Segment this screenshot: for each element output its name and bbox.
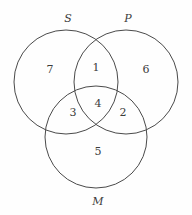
venn-diagram: S P M 1 2 3 4 5 6 7 xyxy=(0,0,192,215)
region-label: 2 xyxy=(120,107,127,118)
region-label: 7 xyxy=(47,64,54,75)
set-label-p: P xyxy=(124,13,131,24)
region-label: 6 xyxy=(143,64,150,75)
region-label: 3 xyxy=(70,107,77,118)
set-label-s: S xyxy=(64,13,72,24)
set-label-m: M xyxy=(92,196,103,207)
region-label: 4 xyxy=(95,98,102,109)
region-label: 1 xyxy=(93,62,100,73)
region-label: 5 xyxy=(95,146,102,157)
circle-set-s xyxy=(14,30,118,134)
